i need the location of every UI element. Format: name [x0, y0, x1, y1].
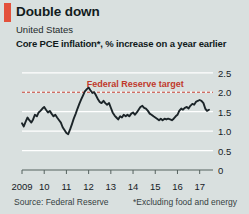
plot-area: 00.51.01.52.02.5 Federal Reserve target — [0, 55, 249, 175]
x-axis-labels: 20091011121314151617 — [0, 181, 249, 193]
chart-subtitle-measure: Core PCE inflation*, % increase on a yea… — [16, 38, 226, 49]
x-tick-label: 10 — [39, 181, 50, 192]
x-axis — [22, 170, 200, 174]
x-tick-label: 15 — [150, 181, 161, 192]
y-tick-label: 1.0 — [218, 126, 231, 137]
y-tick-label: 0.5 — [218, 145, 231, 156]
y-tick-label: 0 — [218, 165, 223, 176]
accent-bar — [4, 3, 11, 22]
y-tick-label: 1.5 — [218, 106, 231, 117]
line-chart-svg — [0, 55, 249, 175]
fed-target-label: Federal Reserve target — [87, 79, 184, 89]
chart-subtitle-country: United States — [16, 24, 73, 35]
x-tick-label: 16 — [172, 181, 183, 192]
x-tick-label: 2009 — [11, 181, 32, 192]
inflation-line — [22, 88, 209, 135]
y-tick-label: 2.0 — [218, 87, 231, 98]
x-tick-label: 13 — [106, 181, 117, 192]
x-tick-label: 17 — [194, 181, 205, 192]
series-line — [22, 88, 209, 135]
y-tick-label: 2.5 — [218, 67, 231, 78]
footnote: *Excluding food and energy — [133, 197, 237, 207]
x-tick-label: 12 — [83, 181, 94, 192]
page-title: Double down — [16, 4, 100, 19]
x-tick-label: 14 — [128, 181, 139, 192]
x-tick-label: 11 — [61, 181, 71, 192]
chart-card: Double down United States Core PCE infla… — [0, 0, 249, 214]
source-note: Source: Federal Reserve — [14, 197, 109, 207]
